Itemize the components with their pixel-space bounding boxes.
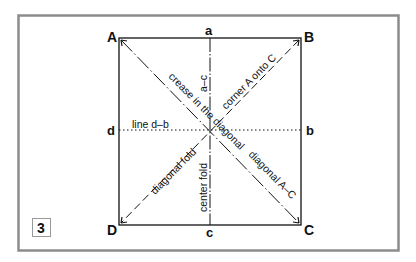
corner-label-b: B [304,29,314,45]
midpoint-label-a: a [205,23,213,38]
label-a-c: a–c [197,75,209,92]
corner-label-d: D [107,222,117,238]
origami-diagram: A B C D a b c d line d–b a–c center fold… [0,0,416,262]
midpoint-label-d: d [107,123,115,138]
corner-label-a: A [107,29,117,45]
label-line-d-b: line d–b [132,118,169,130]
midpoint-label-c: c [206,225,213,240]
corner-label-c: C [304,222,314,238]
outer-frame [19,16,399,251]
label-center-fold: center fold [197,163,209,212]
step-number: 3 [37,220,45,236]
midpoint-label-b: b [306,123,314,138]
